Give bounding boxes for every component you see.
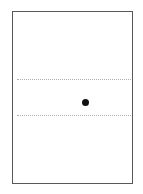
figure-canvas: schematic-diagram [0,0,143,194]
upper-dotted-guide-line [17,79,131,80]
black-point-marker [82,99,89,106]
outer-rectangle-border [12,11,133,184]
lower-dotted-guide-line [17,115,131,116]
